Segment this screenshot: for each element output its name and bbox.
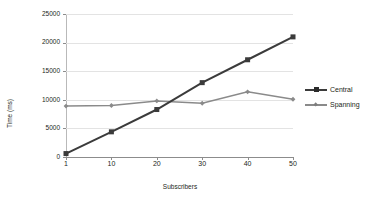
y-axis-title: Time (ms) (6, 99, 13, 128)
plot-area (66, 14, 293, 157)
x-axis-tick-label: 30 (189, 160, 215, 168)
y-axis-tick-label: 0 (20, 153, 60, 160)
data-point (291, 97, 296, 102)
y-axis-tick-label: 5000 (20, 124, 60, 131)
data-point (200, 101, 205, 106)
series-line-spanning (66, 92, 293, 106)
data-point (154, 107, 159, 112)
data-point (64, 151, 69, 156)
data-point (109, 129, 114, 134)
legend-item-spanning[interactable]: Spanning (305, 97, 360, 112)
y-axis-title-wrap: Time (ms) (22, 58, 32, 118)
legend-item-central[interactable]: Central (305, 82, 360, 97)
line-chart: 25000 20000 15000 10000 5000 0 Time (ms) (0, 0, 385, 204)
legend-label-central: Central (330, 86, 353, 94)
x-axis-title: Subscribers (110, 183, 250, 190)
series-layer (66, 14, 293, 157)
data-point (109, 103, 114, 108)
x-axis-tick-label: 40 (235, 160, 261, 168)
data-point (64, 104, 69, 109)
x-axis-line (66, 157, 294, 158)
x-axis-tick-label: 20 (144, 160, 170, 168)
square-marker-icon (314, 87, 319, 92)
legend-swatch-central (305, 85, 327, 95)
data-point (291, 34, 296, 39)
x-axis-tick-label: 50 (280, 160, 306, 168)
data-point (154, 99, 159, 104)
y-axis-tick-label: 25000 (20, 10, 60, 17)
y-axis-tick-label: 20000 (20, 38, 60, 45)
legend-label-spanning: Spanning (330, 101, 360, 109)
data-point (200, 80, 205, 85)
series-line-central (66, 37, 293, 154)
legend-swatch-spanning (305, 100, 327, 110)
x-axis-tick-label: 10 (98, 160, 124, 168)
x-axis-tick-label: 1 (53, 160, 79, 168)
data-point (245, 89, 250, 94)
data-point (245, 57, 250, 62)
legend: Central Spanning (305, 82, 360, 112)
